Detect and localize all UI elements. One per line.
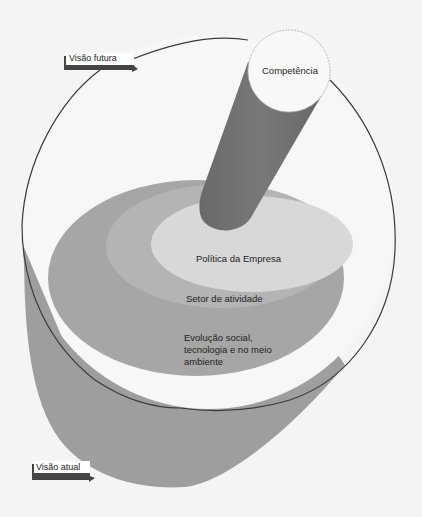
activity-sector-label: Setor de atividade bbox=[186, 293, 263, 305]
future-vision-label: Visão futura bbox=[69, 53, 117, 63]
social-evolution-label: Evolução social, tecnologia e no meio am… bbox=[184, 332, 272, 368]
social-evolution-line-3: ambiente bbox=[184, 356, 272, 368]
competence-diagram: Visão futura Visão atual Competência Pol… bbox=[0, 0, 422, 517]
competence-label: Competência bbox=[262, 65, 318, 77]
social-evolution-line-2: tecnologia e no meio bbox=[184, 344, 272, 356]
social-evolution-line-1: Evolução social, bbox=[184, 332, 272, 344]
company-policy-label: Política da Empresa bbox=[196, 253, 281, 265]
current-vision-label: Visão atual bbox=[36, 462, 80, 472]
